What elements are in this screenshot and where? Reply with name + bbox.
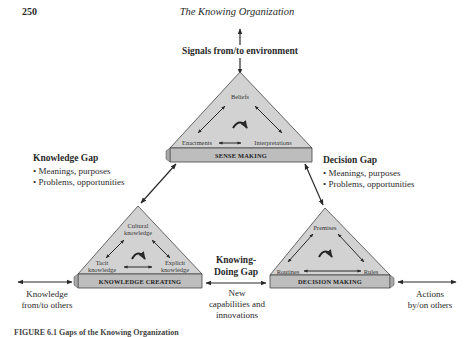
node-line: knowledge (154, 266, 196, 273)
knowledge-gap-bullet: • Meanings, purposes (33, 166, 124, 177)
node-line: knowledge (82, 266, 122, 273)
node-interpretations: Interpretations (243, 139, 303, 146)
node-line: Tacit (82, 259, 122, 266)
node-tacit-knowledge: Tacit knowledge (82, 259, 122, 273)
knowledge-gap-arrow (141, 164, 176, 203)
decision-making-triangle (270, 208, 394, 288)
decision-gap-bullet: • Problems, opportunities (323, 179, 414, 190)
sense-making-label: SENSE MAKING (170, 152, 312, 159)
node-explicit-knowledge: Explicit knowledge (154, 259, 196, 273)
knowledge-gap: Knowledge Gap • Meanings, purposes • Pro… (33, 153, 124, 188)
title-line: Knowing- (206, 254, 266, 266)
label-line: from/to others (0, 300, 94, 311)
label-line: capabilities and (196, 299, 278, 310)
node-premises: Premises (305, 224, 345, 231)
label-line: by/on others (398, 300, 462, 311)
decision-gap-arrow (305, 164, 323, 205)
decision-gap: Decision Gap • Meanings, purposes • Prob… (323, 155, 414, 190)
decision-gap-bullet: • Meanings, purposes (323, 168, 414, 179)
label-line: Actions (398, 289, 462, 300)
knowledge-gap-title: Knowledge Gap (33, 153, 124, 163)
actions-others-label: Actions by/on others (398, 289, 462, 311)
node-beliefs: Beliefs (220, 93, 260, 100)
knowing-doing-gap-title: Knowing- Doing Gap (206, 254, 266, 278)
knowledge-creating-label: KNOWLEDGE CREATING (78, 278, 202, 285)
label-line: New (196, 288, 278, 299)
knowledge-creating-triangle (74, 206, 202, 288)
node-rules: Rules (360, 268, 382, 275)
sense-making-triangle (166, 72, 312, 162)
label-line: Knowledge (0, 289, 94, 300)
node-line: Cultural (113, 222, 163, 229)
node-line: knowledge (113, 229, 163, 236)
environment-label: Signals from/to environment (150, 45, 330, 57)
title-line: Doing Gap (206, 266, 266, 278)
node-routines: Routines (270, 268, 306, 275)
label-line: innovations (196, 310, 278, 321)
new-capabilities-label: New capabilities and innovations (196, 288, 278, 321)
decision-making-label: DECISION MAKING (270, 278, 390, 285)
node-line: Explicit (154, 259, 196, 266)
node-cultural-knowledge: Cultural knowledge (113, 222, 163, 236)
knowledge-others-label: Knowledge from/to others (0, 289, 94, 311)
decision-gap-title: Decision Gap (323, 155, 414, 165)
figure-caption: FIGURE 6.1 Gaps of the Knowing Organizat… (14, 328, 179, 337)
node-enactments: Enactments (177, 139, 217, 146)
knowledge-gap-bullet: • Problems, opportunities (33, 177, 124, 188)
